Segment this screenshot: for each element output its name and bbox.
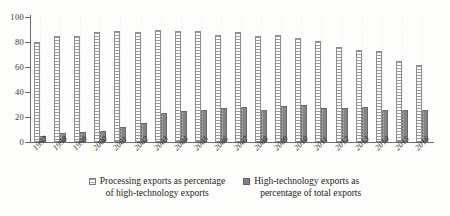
chart-legend: Processing exports as percentage of high… <box>0 176 450 199</box>
vertical-gridline <box>181 17 182 142</box>
legend-label-line2: percentage of total exports <box>254 188 361 200</box>
legend-label-line2: of high-technology exports <box>100 188 225 200</box>
legend-label-high-technology-exports: High-technology exports as percentage of… <box>254 176 361 199</box>
vertical-gridline <box>342 17 343 142</box>
y-axis-tick-label: 60 <box>15 62 24 72</box>
vertical-gridline <box>382 17 383 142</box>
y-axis-tick-mark <box>25 142 30 143</box>
vertical-gridline <box>261 17 262 142</box>
vertical-gridline <box>201 17 202 142</box>
legend-item-high-technology-exports: High-technology exports as percentage of… <box>243 176 361 199</box>
vertical-gridline <box>301 17 302 142</box>
x-axis-line <box>30 142 434 143</box>
vertical-gridline <box>321 17 322 142</box>
plot-area <box>30 17 432 142</box>
legend-label-processing-exports: Processing exports as percentage of high… <box>100 176 225 199</box>
bar-chart: 020406080100 199719981999200020012002200… <box>0 0 450 216</box>
vertical-gridline <box>60 17 61 142</box>
legend-swatch-light-icon <box>89 178 96 185</box>
y-axis-tick-label: 80 <box>15 37 24 47</box>
vertical-gridline <box>80 17 81 142</box>
legend-label-line1: High-technology exports as <box>254 176 359 186</box>
vertical-gridline <box>120 17 121 142</box>
vertical-gridline <box>141 17 142 142</box>
vertical-gridline <box>241 17 242 142</box>
y-axis-tick-label: 40 <box>15 87 24 97</box>
vertical-gridline <box>422 17 423 142</box>
legend-swatch-dark-icon <box>243 178 250 185</box>
y-axis-tick-label: 0 <box>19 137 24 147</box>
vertical-gridline <box>402 17 403 142</box>
vertical-gridline <box>100 17 101 142</box>
vertical-gridline <box>362 17 363 142</box>
y-axis-tick-label: 100 <box>10 12 24 22</box>
vertical-gridline <box>281 17 282 142</box>
legend-item-processing-exports: Processing exports as percentage of high… <box>89 176 225 199</box>
y-axis-tick-label: 20 <box>15 112 24 122</box>
vertical-gridline <box>40 17 41 142</box>
vertical-gridline <box>161 17 162 142</box>
vertical-gridline <box>221 17 222 142</box>
legend-label-line1: Processing exports as percentage <box>100 176 225 186</box>
